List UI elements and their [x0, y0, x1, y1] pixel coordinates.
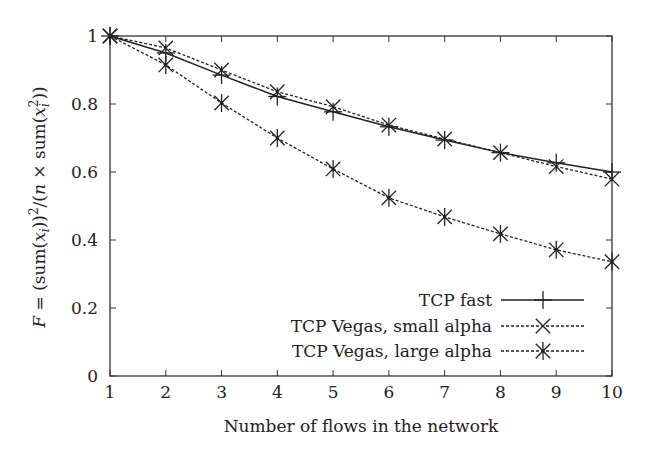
- legend-label: TCP Vegas, large alpha: [292, 341, 492, 361]
- star-marker-icon: [382, 189, 396, 207]
- y-tick-label: 0.8: [71, 94, 98, 114]
- plus-marker-icon: [534, 291, 552, 309]
- plus-marker-icon: [213, 66, 231, 84]
- star-marker-icon: [493, 225, 507, 243]
- y-axis-label-text: F = (sum(xi))2/(n × sum(xi2)): [27, 86, 52, 328]
- x-tick-label: 4: [272, 382, 283, 402]
- series-line: [110, 36, 612, 179]
- y-tick-label: 0.6: [71, 162, 98, 182]
- star-marker-icon: [270, 129, 284, 147]
- series-line: [110, 36, 612, 262]
- plot-series: [101, 27, 621, 271]
- y-tick-label: 0: [87, 366, 98, 386]
- star-marker-icon: [326, 160, 340, 178]
- x-tick-label: 10: [601, 382, 623, 402]
- x-tick-label: 3: [216, 382, 227, 402]
- star-marker-icon: [159, 56, 173, 74]
- y-tick-label: 0.4: [71, 230, 98, 250]
- x-axis-label: Number of flows in the network: [224, 416, 499, 436]
- star-marker-icon: [437, 208, 451, 226]
- plus-marker-icon: [268, 88, 286, 106]
- y-tick-label: 1: [87, 26, 98, 46]
- legend-label: TCP Vegas, small alpha: [291, 316, 492, 336]
- x-tick-label: 8: [495, 382, 506, 402]
- x-tick-label: 9: [551, 382, 562, 402]
- plus-marker-icon: [547, 154, 565, 172]
- y-axis-label: F = (sum(xi))2/(n × sum(xi2)): [27, 86, 52, 328]
- x-tick-label: 5: [328, 382, 339, 402]
- series-tcp-vegas-large-alpha: [103, 27, 619, 271]
- series-tcp-vegas-small-alpha: [103, 29, 619, 187]
- x-tick-label: 6: [383, 382, 394, 402]
- legend: TCP fastTCP Vegas, small alphaTCP Vegas,…: [291, 290, 584, 361]
- star-marker-icon: [549, 241, 563, 259]
- series-line: [110, 36, 612, 172]
- legend-label: TCP fast: [419, 290, 492, 310]
- line-chart: 1234567891000.20.40.60.81 TCP fastTCP Ve…: [0, 0, 654, 456]
- y-tick-label: 0.2: [71, 298, 98, 318]
- x-tick-label: 2: [160, 382, 171, 402]
- plus-marker-icon: [380, 118, 398, 136]
- x-tick-label: 7: [439, 382, 450, 402]
- x-tick-label: 1: [105, 382, 116, 402]
- plus-marker-icon: [324, 103, 342, 121]
- star-marker-icon: [214, 94, 228, 112]
- series-tcp-fast: [101, 27, 621, 181]
- star-marker-icon: [605, 253, 619, 271]
